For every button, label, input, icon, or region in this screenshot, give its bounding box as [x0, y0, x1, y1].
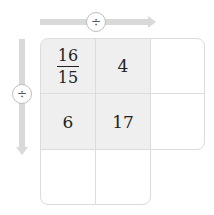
grid-cell-r2-c1[interactable] [95, 149, 151, 205]
grid-cell-r1-c0: 6 [40, 93, 96, 150]
divide-icon-horizontal: ÷ [86, 12, 106, 32]
grid-cell-r1-c1: 17 [95, 93, 151, 150]
grid-cell-r1-c2[interactable] [150, 93, 205, 150]
divide-icon-vertical: ÷ [12, 84, 32, 104]
grid-cell-r2-c0[interactable] [40, 149, 96, 205]
vertical-arrow-head [16, 147, 28, 155]
numerator: 16 [58, 47, 78, 64]
grid-cell-r0-c0: 16 15 [40, 38, 96, 94]
grid-cell-r0-c2[interactable] [150, 38, 205, 94]
horizontal-arrow-head [148, 16, 156, 28]
fraction-bar [57, 66, 79, 67]
fraction: 16 15 [57, 47, 79, 86]
grid-cell-r0-c1: 4 [95, 38, 151, 94]
denominator: 15 [58, 69, 78, 86]
